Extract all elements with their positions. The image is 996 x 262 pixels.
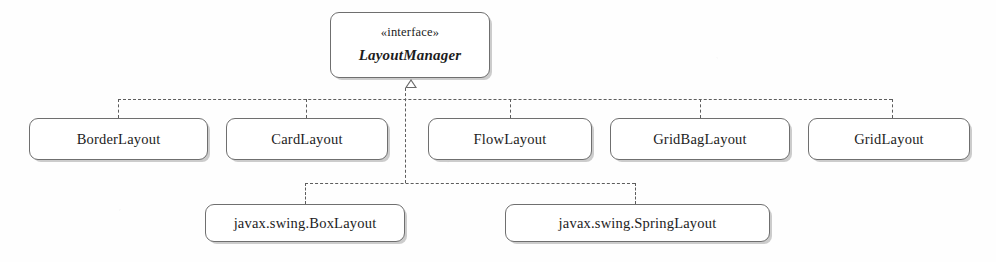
class-name-springlayout: javax.swing.SpringLayout: [559, 214, 717, 232]
interface-name: LayoutManager: [359, 46, 462, 65]
connector-drop-gridbaglayout: [700, 99, 701, 118]
class-name-flowlayout: FlowLayout: [474, 130, 547, 148]
class-node-flowlayout[interactable]: FlowLayout: [428, 118, 592, 160]
connector-drop-boxlayout: [305, 183, 306, 204]
connector-interface-stem: [405, 88, 406, 183]
connector-drop-borderlayout: [118, 99, 119, 118]
connector-bus-lower: [305, 183, 635, 184]
connector-bus-upper: [118, 99, 892, 100]
class-node-gridbaglayout[interactable]: GridBagLayout: [610, 118, 790, 160]
connector-drop-flowlayout: [510, 99, 511, 118]
class-node-gridlayout[interactable]: GridLayout: [808, 118, 970, 160]
class-name-gridbaglayout: GridBagLayout: [653, 130, 747, 148]
connector-drop-cardlayout: [306, 99, 307, 118]
class-node-cardlayout[interactable]: CardLayout: [226, 118, 388, 160]
class-node-borderlayout[interactable]: BorderLayout: [29, 118, 208, 160]
class-name-boxlayout: javax.swing.BoxLayout: [234, 214, 377, 232]
connector-drop-springlayout: [635, 183, 636, 204]
class-name-borderlayout: BorderLayout: [77, 130, 161, 148]
interface-node-layoutmanager[interactable]: «interface» LayoutManager: [330, 12, 490, 78]
realization-arrowhead-icon: [405, 79, 417, 88]
class-name-cardlayout: CardLayout: [271, 130, 342, 148]
interface-stereotype: «interface»: [381, 25, 439, 41]
uml-class-diagram: «interface» LayoutManager BorderLayout C…: [0, 0, 996, 262]
class-node-springlayout[interactable]: javax.swing.SpringLayout: [505, 204, 770, 242]
connector-drop-gridlayout: [892, 99, 893, 118]
class-name-gridlayout: GridLayout: [854, 130, 924, 148]
class-node-boxlayout[interactable]: javax.swing.BoxLayout: [205, 204, 405, 242]
